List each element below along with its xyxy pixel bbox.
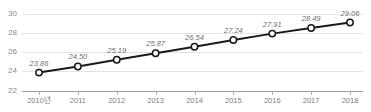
- data-point-marker: [114, 57, 120, 63]
- data-point-label: 27.24: [223, 26, 243, 35]
- data-point-marker: [36, 69, 42, 75]
- chart-canvas: 2224262830 2010년201120122013201420152016…: [0, 0, 371, 112]
- gridlines: [22, 15, 363, 72]
- data-point-marker: [230, 37, 236, 43]
- data-point-labels: 23.8624.5025.1925.8726.5427.2427.9128.49…: [29, 9, 361, 68]
- x-tick-label: 2010년: [27, 95, 51, 105]
- y-tick-label: 24: [8, 66, 17, 75]
- data-point-label: 23.86: [29, 59, 50, 68]
- x-axis-tick-labels: 2010년20112012201320142015201620172018: [27, 95, 358, 105]
- x-tick-label: 2014: [186, 96, 203, 105]
- data-point-marker: [191, 44, 197, 50]
- x-tick-label: 2015: [225, 96, 242, 105]
- data-point-marker: [347, 19, 353, 25]
- y-tick-label: 28: [8, 28, 17, 37]
- data-point-marker: [152, 50, 158, 56]
- data-point-label: 28.49: [301, 14, 322, 23]
- x-tick-label: 2017: [303, 96, 320, 105]
- data-point-label: 25.19: [106, 46, 127, 55]
- line-chart: 2224262830 2010년201120122013201420152016…: [0, 0, 371, 112]
- x-tick-label: 2013: [147, 96, 164, 105]
- x-tick-label: 2016: [264, 96, 281, 105]
- y-tick-label: 26: [8, 47, 17, 56]
- data-point-marker: [308, 25, 314, 31]
- x-tick-label: 2012: [108, 96, 125, 105]
- data-point-marker: [75, 63, 81, 69]
- data-point-label: 29.06: [340, 9, 361, 18]
- data-point-label: 25.87: [145, 39, 166, 48]
- data-point-label: 24.50: [67, 52, 88, 61]
- data-point-label: 26.54: [184, 33, 204, 42]
- data-point-marker: [269, 30, 275, 36]
- x-tick-label: 2018: [342, 96, 359, 105]
- x-tick-label: 2011: [70, 96, 86, 105]
- y-axis-tick-labels: 2224262830: [8, 9, 17, 95]
- data-point-label: 27.91: [262, 20, 282, 29]
- y-tick-label: 22: [8, 86, 17, 95]
- y-tick-label: 30: [8, 9, 17, 18]
